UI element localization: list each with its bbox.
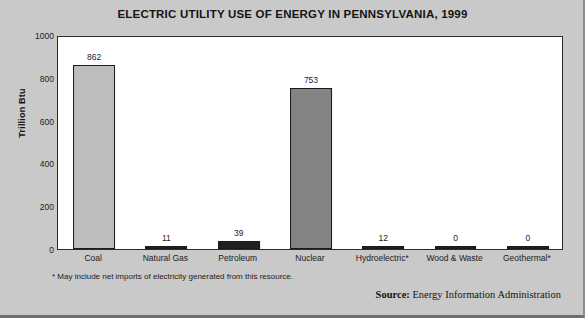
x-tick-label: Wood & Waste bbox=[418, 253, 490, 263]
bar-slot: 862 bbox=[58, 37, 130, 249]
x-axis-tick-labels: CoalNatural GasPetroleumNuclearHydroelec… bbox=[57, 253, 563, 269]
bar[interactable] bbox=[145, 246, 187, 249]
bar-slot: 39 bbox=[203, 37, 275, 249]
x-tick-label: Petroleum bbox=[202, 253, 274, 263]
y-tick-label: 1000 bbox=[14, 31, 54, 41]
x-tick-label: Nuclear bbox=[274, 253, 346, 263]
bar[interactable] bbox=[290, 88, 332, 249]
bar-slot: 753 bbox=[275, 37, 347, 249]
bars-container: 86211397531200 bbox=[58, 37, 562, 249]
chart-title: ELECTRIC UTILITY USE OF ENERGY IN PENNSY… bbox=[0, 8, 585, 20]
x-tick-label: Geothermal* bbox=[491, 253, 563, 263]
y-tick-label: 200 bbox=[14, 202, 54, 212]
y-tick-label: 800 bbox=[14, 74, 54, 84]
y-tick-label: 400 bbox=[14, 159, 54, 169]
bar-value-label: 39 bbox=[234, 228, 243, 238]
bar-value-label: 753 bbox=[304, 75, 318, 85]
bar[interactable] bbox=[73, 65, 115, 249]
source-text: Energy Information Administration bbox=[410, 289, 561, 300]
chart-source: Source: Energy Information Administratio… bbox=[376, 289, 561, 300]
x-tick-label: Hydroelectric* bbox=[346, 253, 418, 263]
y-tick-label: 0 bbox=[14, 245, 54, 255]
bar-slot: 12 bbox=[347, 37, 419, 249]
bar-value-label: 862 bbox=[87, 52, 101, 62]
bar-value-label: 0 bbox=[453, 233, 458, 243]
bar-slot: 11 bbox=[130, 37, 202, 249]
bar-value-label: 0 bbox=[525, 233, 530, 243]
bar-value-label: 12 bbox=[379, 233, 388, 243]
chart-figure: ELECTRIC UTILITY USE OF ENERGY IN PENNSY… bbox=[0, 0, 585, 318]
bar-slot: 0 bbox=[492, 37, 564, 249]
bar-slot: 0 bbox=[419, 37, 491, 249]
plot-area: 86211397531200 bbox=[57, 36, 563, 250]
y-axis-tick-labels: 10008006004002000 bbox=[12, 36, 54, 250]
source-label: Source: bbox=[376, 289, 410, 300]
y-tick-label: 600 bbox=[14, 117, 54, 127]
x-tick-label: Coal bbox=[57, 253, 129, 263]
bar[interactable] bbox=[435, 246, 477, 249]
bar[interactable] bbox=[507, 246, 549, 249]
chart-footnote: * May include net imports of electricity… bbox=[52, 272, 293, 281]
bar[interactable] bbox=[362, 246, 404, 249]
x-tick-label: Natural Gas bbox=[129, 253, 201, 263]
bar-value-label: 11 bbox=[162, 233, 171, 243]
bar[interactable] bbox=[218, 241, 260, 249]
